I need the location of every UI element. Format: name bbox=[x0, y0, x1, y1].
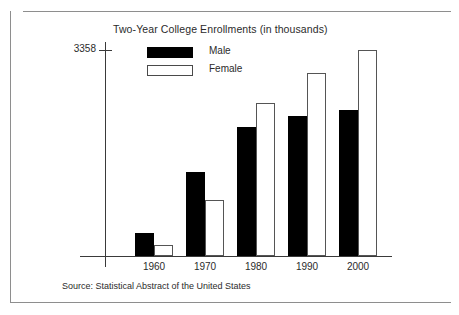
plot-area: Two-Year College Enrollments (in thousan… bbox=[0, 0, 459, 315]
x-axis-labels: 19601970198019902000 bbox=[0, 0, 459, 315]
x-axis-label-1980: 1980 bbox=[232, 261, 280, 272]
x-axis-label-1990: 1990 bbox=[283, 261, 331, 272]
x-axis-label-2000: 2000 bbox=[334, 261, 382, 272]
chart-figure: Two-Year College Enrollments (in thousan… bbox=[0, 0, 459, 315]
x-axis-label-1970: 1970 bbox=[181, 261, 229, 272]
x-axis-label-1960: 1960 bbox=[130, 261, 178, 272]
source-note: Source: Statistical Abstract of the Unit… bbox=[62, 281, 251, 291]
